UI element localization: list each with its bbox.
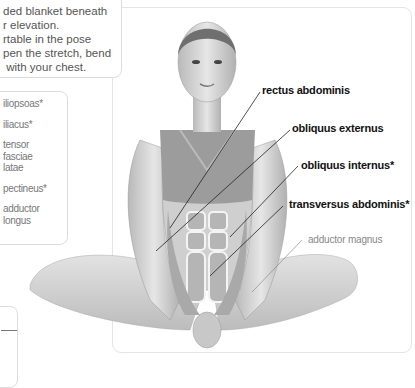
label-rectus-abdominis: rectus abdominis bbox=[262, 84, 350, 96]
label-transversus-abdominis: transversus abdominis* bbox=[289, 198, 409, 210]
muscle-list-item: tensor fasciae latae bbox=[3, 139, 53, 174]
tip-box: ded blanket beneath r elevation. rtable … bbox=[0, 0, 122, 78]
legend-rule bbox=[1, 330, 17, 331]
muscle-list-item: pectineus* bbox=[3, 183, 53, 195]
label-obliquus-internus: obliquus internus* bbox=[301, 159, 394, 171]
tip-text: ded blanket beneath r elevation. rtable … bbox=[3, 4, 122, 74]
sports-top bbox=[160, 130, 255, 204]
muscle-list-item: iliacus* bbox=[3, 119, 53, 131]
muscle-list-item: iliopsoas* bbox=[3, 98, 53, 110]
label-obliquus-externus: obliquus externus bbox=[292, 122, 383, 134]
muscle-list-item: adductor longus bbox=[3, 203, 48, 226]
muscle-list: iliopsoas* iliacus* tensor fasciae latae… bbox=[0, 91, 68, 245]
legend-box bbox=[0, 306, 18, 388]
label-adductor-magnus: adductor magnus bbox=[308, 234, 382, 245]
